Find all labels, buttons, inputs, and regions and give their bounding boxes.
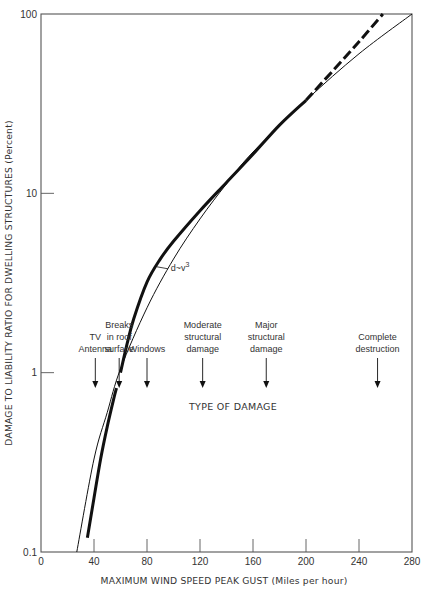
arrowhead-icon [116, 381, 122, 388]
y-tick-label: 1 [31, 367, 37, 378]
damage-annotation-text: TV [90, 332, 102, 342]
y-tick-label: 0.1 [23, 547, 37, 558]
damage-annotation-text: in roof [107, 332, 133, 342]
damage-annotation-text: damage [250, 344, 283, 354]
y-axis-ticks: 0.1110100 [20, 9, 54, 558]
damage-annotation-text: Moderate [184, 320, 222, 330]
arrowhead-icon [144, 381, 150, 388]
damage-annotation: Windows [129, 344, 166, 388]
y-tick-label: 10 [26, 188, 38, 199]
damage-annotation-text: structural [248, 332, 285, 342]
plot-frame [41, 14, 412, 552]
arrowhead-icon [92, 381, 98, 388]
x-tick-label: 0 [38, 556, 44, 567]
x-tick-label: 160 [245, 556, 262, 567]
x-tick-label: 240 [351, 556, 368, 567]
chart: 04080120160200240280 0.1110100 TVAntenna… [0, 0, 428, 595]
damage-annotation: Completedestruction [356, 332, 400, 388]
plot-border [41, 14, 412, 552]
damage-annotation-text: structural [184, 332, 221, 342]
arrowhead-icon [200, 381, 206, 388]
arrowhead-icon [263, 381, 269, 388]
x-tick-label: 120 [192, 556, 209, 567]
y-axis-title: DAMAGE TO LIABILITY RATIO FOR DWELLING S… [3, 120, 14, 445]
x-tick-label: 80 [141, 556, 153, 567]
curve-observed-damage [87, 388, 116, 538]
curve-label-leader [157, 267, 168, 269]
x-tick-label: 200 [298, 556, 315, 567]
arrowhead-icon [375, 381, 381, 388]
x-tick-label: 280 [404, 556, 421, 567]
damage-annotation-text: Breaks [105, 320, 134, 330]
x-axis-ticks: 04080120160200240280 [38, 539, 421, 567]
curve-d-v3 [77, 14, 412, 552]
curve-observed-damage-extrapolated [306, 14, 383, 100]
damage-annotation: Moderatestructuraldamage [184, 320, 222, 388]
damage-annotation-text: Complete [358, 332, 397, 342]
damage-annotation-text: destruction [356, 344, 400, 354]
x-tick-label: 40 [88, 556, 100, 567]
damage-annotation-text: damage [186, 344, 219, 354]
damage-annotation-text: Major [255, 320, 278, 330]
type-of-damage-label: TYPE OF DAMAGE [188, 401, 277, 412]
curve-label-d-v3: d~v3 [171, 261, 190, 273]
curves [77, 14, 412, 552]
x-axis-title: MAXIMUM WIND SPEED PEAK GUST (Miles per … [101, 575, 348, 586]
damage-annotation-text: Windows [129, 344, 166, 354]
y-tick-label: 100 [20, 9, 37, 20]
damage-annotation: Majorstructuraldamage [248, 320, 285, 388]
